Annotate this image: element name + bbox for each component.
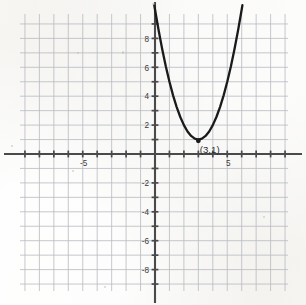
y-tick-label: -8 <box>142 266 150 275</box>
x-tick-label: -5 <box>80 159 88 168</box>
paper-speck <box>104 286 106 288</box>
y-tick-label: 8 <box>144 35 149 44</box>
paper-speck <box>152 3 155 5</box>
y-tick-label: 2 <box>144 121 149 130</box>
coordinate-plane: 8642-2-4-6-8-55 (3,1) <box>0 0 306 305</box>
y-tick-label: -2 <box>142 179 150 188</box>
y-tick-label: -6 <box>142 237 150 246</box>
y-tick-label: -4 <box>142 208 150 217</box>
axes <box>4 2 302 303</box>
vertex-annotation: (3,1) <box>196 138 220 155</box>
paper-speck <box>11 145 13 147</box>
paper-speck <box>77 52 79 54</box>
vertex-label: (3,1) <box>200 144 220 155</box>
y-tick-label: 4 <box>144 92 149 101</box>
paper-speck <box>263 216 265 218</box>
paper-speck <box>122 51 124 54</box>
paper-speck <box>72 170 74 172</box>
y-tick-label: 6 <box>144 64 149 73</box>
x-tick-label: 5 <box>226 159 231 168</box>
graph-scene: 8642-2-4-6-8-55 (3,1) <box>0 0 306 305</box>
